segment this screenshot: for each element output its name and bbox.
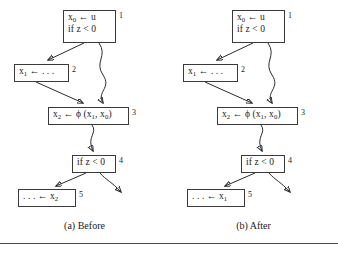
sub-2: 2 — [227, 113, 231, 120]
node-2-line-1: x1 ← . . . — [188, 66, 233, 78]
edge-4-to-exit — [100, 173, 121, 192]
node-1-line-2: if z < 0 — [237, 24, 280, 36]
edge-3-to-4-wavy — [260, 125, 263, 151]
node-1-line-1: x0 ← u — [68, 12, 111, 24]
node-3-line-1: x2 ← ϕ (x1, x0) — [53, 109, 124, 121]
edge-2-to-3 — [205, 82, 252, 103]
node-block-2: x1 ← . . . — [183, 64, 238, 82]
node-1-label: 1 — [288, 12, 292, 20]
node-4-label: 4 — [119, 157, 123, 165]
node-block-4: if z < 0 — [241, 155, 285, 173]
node-4-line-1: if z < 0 — [77, 157, 111, 169]
sub-1c: 1 — [224, 195, 228, 202]
node-3-label: 3 — [301, 109, 305, 117]
node-5-line-1: . . . ← x1 — [192, 191, 240, 203]
sub-2c: 2 — [55, 195, 59, 202]
node-4-label: 4 — [288, 157, 292, 165]
node-block-3: x2 ← ϕ (x1, x0) — [217, 107, 298, 125]
node-block-1: x0 ← u if z < 0 — [63, 10, 116, 43]
node-4-line-1: if z < 0 — [246, 157, 280, 169]
node-5-line-1: . . . ← x2 — [23, 191, 71, 203]
node-block-4: if z < 0 — [72, 155, 116, 173]
figure-divider-rule — [0, 243, 338, 244]
node-block-3: x2 ← ϕ (x1, x0) — [48, 107, 129, 125]
caption-after: (b) After — [169, 220, 338, 232]
node-5-label: 5 — [79, 191, 83, 199]
node-block-5: . . . ← x1 — [187, 189, 245, 207]
sub-1b: 1 — [92, 113, 96, 120]
node-block-5: . . . ← x2 — [18, 189, 76, 207]
panel-after: x0 ← u if z < 0 1 x1 ← . . . 2 x2 ← ϕ (x… — [169, 0, 338, 218]
sub-0: 0 — [73, 16, 77, 23]
node-2-line-1: x1 ← . . . — [19, 66, 64, 78]
sub-1: 1 — [24, 70, 28, 77]
node-1-line-1: x0 ← u — [237, 12, 280, 24]
edge-2-to-3 — [36, 82, 83, 103]
node-1-line-2: if z < 0 — [68, 24, 111, 36]
sub-0: 0 — [242, 16, 246, 23]
panel-before: x0 ← u if z < 0 1 x1 ← . . . 2 x2 ← ϕ (x… — [0, 0, 169, 218]
sub-0b: 0 — [274, 113, 278, 120]
edge-1-to-2 — [48, 43, 84, 60]
node-2-label: 2 — [241, 66, 245, 74]
node-2-label: 2 — [72, 66, 76, 74]
node-block-2: x1 ← . . . — [14, 64, 69, 82]
sub-0b: 0 — [105, 113, 109, 120]
edge-4-to-5 — [56, 173, 86, 186]
edge-4-to-exit — [269, 173, 290, 192]
edge-1-to-2 — [217, 43, 253, 60]
edge-1-to-3-wavy — [268, 43, 275, 103]
node-3-label: 3 — [132, 109, 136, 117]
caption-before: (a) Before — [0, 220, 169, 232]
figure-ssa-copy-propagation: x0 ← u if z < 0 1 x1 ← . . . 2 x2 ← ϕ (x… — [0, 0, 338, 253]
sub-1b: 1 — [261, 113, 265, 120]
node-3-line-1: x2 ← ϕ (x1, x0) — [222, 109, 293, 121]
node-block-1: x0 ← u if z < 0 — [232, 10, 285, 43]
node-1-label: 1 — [119, 12, 123, 20]
edge-1-to-3-wavy — [99, 43, 106, 103]
edge-4-to-5 — [225, 173, 255, 186]
sub-1: 1 — [193, 70, 197, 77]
edge-3-to-4-wavy — [91, 125, 94, 151]
node-5-label: 5 — [248, 191, 252, 199]
sub-2: 2 — [58, 113, 62, 120]
